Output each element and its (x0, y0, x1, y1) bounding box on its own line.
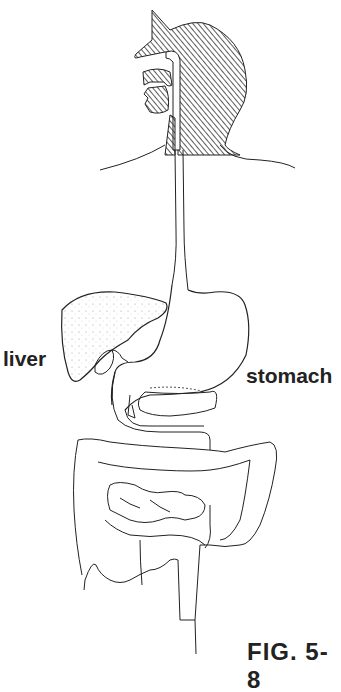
small-intestine (105, 483, 210, 586)
esophagus (172, 150, 188, 290)
liver (62, 292, 167, 382)
duodenum (112, 372, 210, 450)
liver-label: liver (3, 347, 46, 371)
head-silhouette (100, 10, 295, 170)
stomach-label: stomach (246, 364, 332, 388)
large-intestine (74, 439, 277, 654)
figure-caption: FIG. 5-8 (247, 638, 341, 692)
